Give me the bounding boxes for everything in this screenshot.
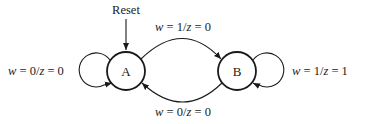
state-b: B (218, 52, 256, 90)
state-diagram: Reset A B w = 0/z = 0 w = 1/z = 1 w = 1/… (0, 0, 366, 124)
state-a-label: A (121, 64, 131, 79)
reset-label: Reset (112, 3, 140, 17)
transition-a-to-b-label: w = 1/z = 0 (155, 20, 211, 34)
self-loop-b (253, 53, 284, 87)
state-b-label: B (233, 64, 242, 79)
transition-a-to-b (141, 39, 221, 60)
transition-b-to-a (142, 83, 222, 102)
state-a: A (107, 52, 145, 90)
self-loop-b-label: w = 1/z = 1 (292, 64, 348, 78)
transition-b-to-a-label: w = 0/z = 0 (155, 105, 211, 119)
self-loop-a-label: w = 0/z = 0 (8, 64, 64, 78)
